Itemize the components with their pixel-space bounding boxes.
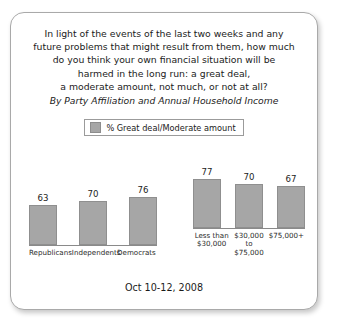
- x-tick-label: Independents: [72, 249, 116, 257]
- question-text: In light of the events of the last two w…: [25, 27, 303, 107]
- x-axis-tick-labels: Republicans Independents Democrats: [29, 249, 157, 257]
- question-line: do you think your own financial situatio…: [25, 53, 303, 66]
- question-line: future problems that might result from t…: [25, 40, 303, 53]
- question-line: In light of the events of the last two w…: [25, 27, 303, 40]
- legend-label: % Great deal/Moderate amount: [106, 123, 235, 133]
- bar-column: 63: [29, 177, 57, 245]
- bar-value-label: 77: [202, 168, 213, 177]
- bar-value-label: 67: [286, 175, 297, 184]
- x-tick-label: Democrats: [116, 249, 157, 257]
- x-axis-line: [29, 245, 157, 246]
- legend-container: % Great deal/Moderate amount: [11, 119, 317, 136]
- bar-column: 70: [235, 160, 263, 228]
- question-line: a moderate amount, not much, or not at a…: [25, 80, 303, 93]
- bar: [129, 197, 157, 245]
- bar-value-label: 63: [38, 194, 49, 203]
- chart-subtitle: By Party Affiliation and Annual Househol…: [25, 94, 303, 107]
- bar-set: 63 70 76: [29, 177, 157, 245]
- x-tick-label: Republicans: [29, 249, 72, 257]
- chart-footer-date: Oct 10-12, 2008: [11, 282, 317, 293]
- x-tick-label: $30,000 to $75,000: [230, 232, 267, 257]
- bar-column: 67: [277, 160, 305, 228]
- bar: [193, 179, 221, 228]
- bar-group-party-affiliation: 63 70 76 Republicans Independents Democr…: [29, 177, 157, 257]
- bar-value-label: 76: [138, 186, 149, 195]
- x-axis-line: [193, 228, 305, 229]
- legend-swatch-icon: [90, 122, 101, 133]
- bar: [79, 201, 107, 245]
- bar-column: 77: [193, 160, 221, 228]
- bar-value-label: 70: [244, 173, 255, 182]
- bar-group-household-income: 77 70 67 Less than $30,000 $30,000 to $7…: [193, 160, 305, 257]
- legend: % Great deal/Moderate amount: [84, 119, 243, 136]
- bar: [277, 186, 305, 228]
- bar-value-label: 70: [88, 190, 99, 199]
- bar: [29, 205, 57, 245]
- chart-plot-area: 63 70 76 Republicans Independents Democr…: [11, 151, 317, 279]
- chart-card: In light of the events of the last two w…: [10, 12, 318, 310]
- bar-set: 77 70 67: [193, 160, 305, 228]
- x-axis-tick-labels: Less than $30,000 $30,000 to $75,000 $75…: [193, 232, 305, 257]
- x-tick-label: Less than $30,000: [193, 232, 230, 257]
- x-tick-label: $75,000+: [268, 232, 305, 257]
- bar-column: 76: [129, 177, 157, 245]
- bar: [235, 184, 263, 228]
- question-line: harmed in the long run: a great deal,: [25, 67, 303, 80]
- bar-column: 70: [79, 177, 107, 245]
